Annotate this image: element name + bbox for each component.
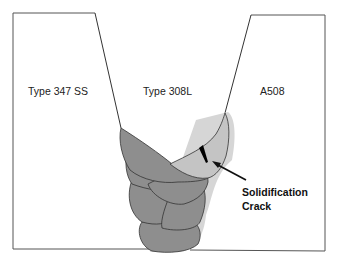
right-groove-face [225, 15, 251, 113]
label-weld-metal: Type 308L [143, 85, 192, 97]
callout-label: Solidification Crack [242, 185, 308, 213]
left-groove-face [95, 13, 121, 128]
callout-line-1: Solidification [242, 185, 308, 199]
weld-joint-diagram [0, 0, 337, 262]
callout-line-2: Crack [242, 199, 308, 213]
label-left-plate: Type 347 SS [28, 85, 88, 97]
label-right-plate: A508 [260, 85, 285, 97]
left-plate-outline [13, 13, 150, 249]
